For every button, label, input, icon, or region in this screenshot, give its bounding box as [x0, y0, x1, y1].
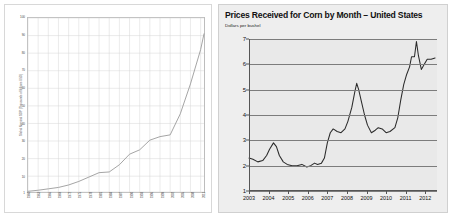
left-chart-x-tick: 2002	[171, 192, 175, 198]
left-chart-y-tick: 20	[22, 157, 25, 161]
left-chart-x-tick: 1987	[119, 192, 123, 198]
right-chart-x-tick: 2004	[263, 195, 275, 201]
right-chart-gridline	[249, 140, 437, 141]
left-chart-x-tick: 1978	[89, 192, 93, 198]
left-chart-y-tick: 80	[22, 51, 25, 55]
right-chart-x-tick: 2005	[282, 195, 294, 201]
left-chart-y-tick: 10	[22, 175, 25, 179]
right-chart-x-tick: 2006	[302, 195, 314, 201]
left-chart-y-tick: 1	[23, 191, 25, 195]
left-chart-plot-area: Global Nominal GDP (Thousands of Billion…	[27, 17, 205, 193]
left-chart-y-tick: 60	[22, 86, 25, 90]
left-chart-x-tick: 1981	[99, 192, 103, 198]
right-chart-gridline	[249, 115, 437, 116]
left-chart-x-tick: 1975	[78, 192, 82, 198]
left-chart-panel: Global Nominal GDP (Thousands of Billion…	[4, 4, 212, 213]
right-chart-y-tick-mark	[246, 165, 249, 166]
right-chart-y-tick-mark	[246, 64, 249, 65]
right-chart-panel: Prices Received for Corn by Month – Unit…	[218, 4, 448, 213]
left-chart-y-tick: 50	[22, 104, 25, 108]
left-chart-x-tick: 1972	[68, 192, 72, 198]
right-chart-gridline	[249, 191, 437, 192]
right-chart-canvas	[249, 39, 437, 191]
left-chart-x-tick: 1990	[130, 192, 134, 198]
right-chart-plot-area: 7654321 20032004200520062007200820092010…	[249, 39, 437, 191]
right-chart-gridline	[249, 166, 437, 167]
left-chart-x-tick: 1960	[27, 192, 31, 198]
right-chart-x-tick: 2003	[243, 195, 255, 201]
left-chart-x-tick: 1984	[109, 192, 113, 198]
left-chart-x-tick: 1969	[58, 192, 62, 198]
right-chart-y-tick-mark	[246, 115, 249, 116]
left-chart-x-tick: 2011	[202, 192, 206, 198]
right-chart-y-axis	[249, 39, 250, 191]
left-chart-y-tick: 40	[22, 122, 25, 126]
left-chart-canvas	[27, 17, 205, 193]
right-chart-x-tick-mark	[347, 191, 348, 194]
left-chart-line-series	[28, 34, 204, 191]
left-chart-svg	[28, 18, 204, 192]
left-chart-y-tick: 100	[20, 15, 25, 19]
left-chart-x-tick: 1996	[150, 192, 154, 198]
right-chart-x-axis	[249, 190, 437, 191]
right-chart-y-tick-mark	[246, 140, 249, 141]
right-chart-line-series	[249, 42, 435, 167]
left-chart-x-tick: 2008	[191, 192, 195, 198]
right-chart-x-tick: 2007	[321, 195, 333, 201]
right-chart-x-tick: 2012	[419, 195, 431, 201]
right-chart-x-tick: 2008	[341, 195, 353, 201]
right-chart-x-tick: 2009	[361, 195, 373, 201]
right-chart-x-tick: 2010	[380, 195, 392, 201]
right-chart-x-tick-mark	[425, 191, 426, 194]
right-chart-y-tick-mark	[246, 89, 249, 90]
right-chart-x-tick-mark	[406, 191, 407, 194]
right-chart-x-tick-mark	[288, 191, 289, 194]
right-chart-x-tick-mark	[367, 191, 368, 194]
left-chart-x-tick: 1993	[140, 192, 144, 198]
right-chart-x-tick: 2011	[400, 195, 412, 201]
right-chart-gridline	[249, 39, 437, 40]
left-chart-x-tick: 2005	[181, 192, 185, 198]
left-chart-y-tick: 70	[22, 68, 25, 72]
right-chart-subtitle: Dollars per bushel	[225, 23, 439, 28]
screenshot-root: Global Nominal GDP (Thousands of Billion…	[0, 0, 454, 217]
left-chart-y-tick: 30	[22, 139, 25, 143]
right-chart-title: Prices Received for Corn by Month – Unit…	[225, 11, 439, 20]
right-chart-gridline	[249, 90, 437, 91]
right-chart-x-tick-mark	[269, 191, 270, 194]
right-chart-gridline	[249, 64, 437, 65]
right-chart-x-tick-mark	[249, 191, 250, 194]
left-chart-x-tick: 1966	[48, 192, 52, 198]
left-chart-gridlines	[28, 18, 204, 192]
right-chart-y-tick-mark	[246, 39, 249, 40]
right-chart-x-tick-mark	[327, 191, 328, 194]
right-chart-x-tick-mark	[386, 191, 387, 194]
left-chart-x-tick: 1963	[37, 192, 41, 198]
left-chart-y-tick: 90	[22, 33, 25, 37]
right-chart-x-tick-mark	[308, 191, 309, 194]
left-chart-x-tick: 1999	[161, 192, 165, 198]
